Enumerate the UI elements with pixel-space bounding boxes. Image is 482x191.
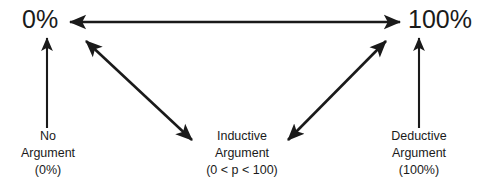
node-deductive-argument: Deductive Argument (100%) [360, 128, 478, 179]
node-no-argument-value: (0%) [0, 162, 96, 179]
node-deductive-argument-value: (100%) [360, 162, 478, 179]
node-inductive-argument-value: (0 < p < 100) [180, 162, 304, 179]
node-no-argument-line2: Argument [0, 145, 96, 162]
node-inductive-argument-line1: Inductive [180, 128, 304, 145]
node-inductive-argument: Inductive Argument (0 < p < 100) [180, 128, 304, 179]
argument-continuum-diagram: 0% 100% No Argument (0%) Inductive Argum… [0, 0, 482, 191]
node-no-argument: No Argument (0%) [0, 128, 96, 179]
node-deductive-argument-line1: Deductive [360, 128, 478, 145]
node-no-argument-line1: No [0, 128, 96, 145]
diagonal-double-arrow-right [288, 41, 386, 140]
node-inductive-argument-line2: Argument [180, 145, 304, 162]
diagonal-double-arrow-left [86, 41, 192, 140]
node-deductive-argument-line2: Argument [360, 145, 478, 162]
scale-min-label: 0% [22, 7, 58, 32]
scale-max-label: 100% [408, 7, 472, 32]
